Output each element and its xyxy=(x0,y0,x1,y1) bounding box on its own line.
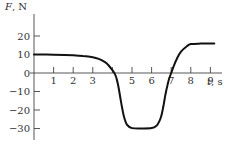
x-tick-label: 3 xyxy=(90,75,96,86)
y-axis-label-unit: , N xyxy=(12,1,27,12)
x-axis-label: t, s xyxy=(207,76,223,87)
x-tick-label: 8 xyxy=(188,75,194,86)
y-tick-label: −30 xyxy=(9,123,30,134)
y-axis: 20100−10−20−30 xyxy=(9,14,40,140)
y-tick-label: 20 xyxy=(17,31,30,42)
y-axis-label: F, N xyxy=(4,1,27,12)
force-time-chart: 20100−10−20−30 12356789 F, N t, s xyxy=(0,0,227,147)
y-tick-label: 10 xyxy=(17,49,30,60)
x-tick-label: 1 xyxy=(50,75,56,86)
x-axis-label-unit: , s xyxy=(211,76,223,87)
y-tick-label: 0 xyxy=(24,68,30,79)
x-axis: 12356789 xyxy=(30,67,222,86)
y-tick-label: −10 xyxy=(9,86,30,97)
x-tick-label: 2 xyxy=(70,75,76,86)
x-tick-label: 6 xyxy=(148,75,154,86)
y-tick-label: −20 xyxy=(9,105,30,116)
x-tick-label: 5 xyxy=(129,75,135,86)
